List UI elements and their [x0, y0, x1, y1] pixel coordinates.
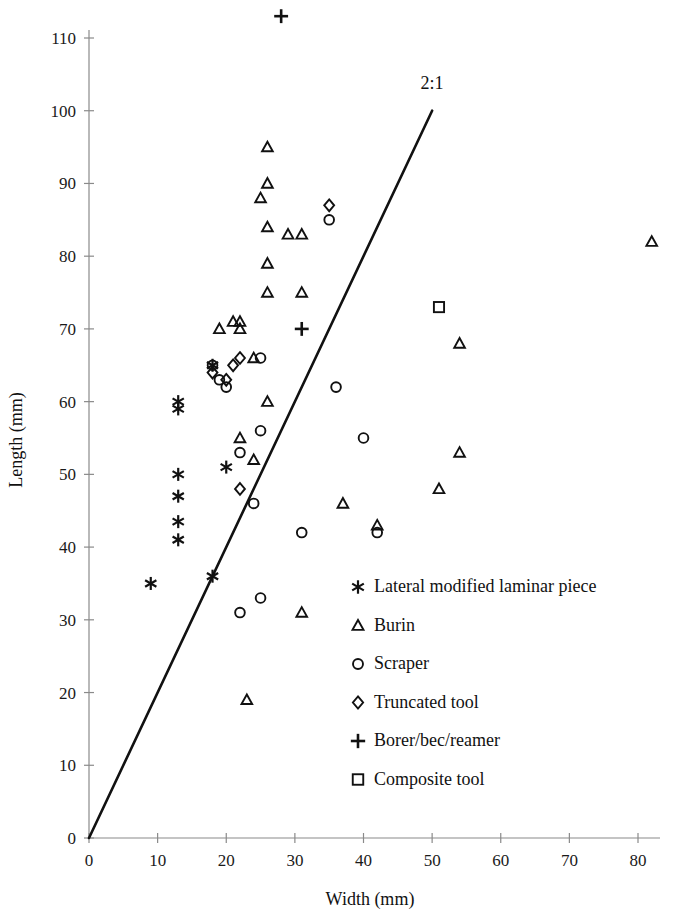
legend-marker-square-icon: [353, 774, 363, 784]
data-point: [296, 287, 307, 297]
x-tick-label: 70: [561, 851, 578, 870]
x-tick-label: 50: [424, 851, 441, 870]
x-tick-label: 10: [149, 851, 166, 870]
y-tick-label: 80: [59, 247, 76, 266]
data-point: [256, 593, 266, 603]
series-1: [214, 142, 657, 704]
legend-item: Lateral modified laminar piece: [352, 576, 596, 596]
data-point: [359, 433, 369, 443]
data-point: [646, 236, 657, 246]
series-0: [145, 359, 232, 590]
data-points: [145, 9, 657, 704]
data-point: [296, 229, 307, 239]
legend-item: Borer/bec/reamer: [351, 730, 500, 750]
x-tick-label: 60: [492, 851, 509, 870]
x-tick-label: 20: [218, 851, 235, 870]
data-point: [283, 229, 294, 239]
legend-item: Scraper: [353, 653, 429, 673]
y-tick-label: 100: [51, 102, 77, 121]
y-tick-label: 0: [68, 829, 77, 848]
data-point: [262, 178, 273, 188]
data-point: [235, 433, 246, 443]
legend-label: Scraper: [374, 653, 429, 673]
y-tick-label: 90: [59, 174, 76, 193]
legend-item: Composite tool: [353, 769, 485, 789]
data-point: [324, 215, 334, 225]
legend-label: Composite tool: [374, 769, 485, 789]
data-point: [255, 193, 266, 203]
legend-marker-triangle-icon: [352, 620, 363, 630]
data-point: [214, 324, 225, 334]
legend-label: Truncated tool: [374, 692, 479, 712]
data-point: [235, 483, 245, 495]
y-tick-label: 10: [59, 756, 76, 775]
data-point: [256, 426, 266, 436]
data-point: [338, 498, 349, 508]
y-tick-label: 110: [51, 29, 76, 48]
data-point: [454, 447, 465, 457]
ratio-annotation-label: 2:1: [421, 73, 444, 93]
data-point: [249, 499, 259, 509]
legend-item: Truncated tool: [353, 692, 479, 712]
y-tick-label: 50: [59, 465, 76, 484]
legend-label: Burin: [374, 615, 415, 635]
series-4: [274, 9, 308, 336]
data-point: [434, 484, 445, 494]
legend-marker-diamond-icon: [353, 696, 363, 708]
legend-marker-circle-icon: [353, 659, 363, 669]
data-point: [262, 258, 273, 268]
data-point: [242, 694, 253, 704]
data-point: [262, 142, 273, 152]
axes: 0102030405060708001020304050607080901001…: [51, 29, 661, 870]
data-point: [248, 454, 259, 464]
y-axis-title: Length (mm): [6, 392, 27, 487]
legend-label: Borer/bec/reamer: [374, 730, 500, 750]
legend: Lateral modified laminar pieceBurinScrap…: [351, 576, 597, 789]
y-tick-label: 60: [59, 393, 76, 412]
plot-canvas: 0102030405060708001020304050607080901001…: [0, 0, 678, 917]
data-point: [235, 448, 245, 458]
x-tick-label: 30: [286, 851, 303, 870]
data-point: [297, 528, 307, 538]
ratio-line-2to1: [89, 111, 432, 838]
data-point: [454, 338, 465, 348]
legend-item: Burin: [352, 615, 415, 635]
x-tick-label: 80: [630, 851, 647, 870]
data-point: [434, 302, 444, 312]
y-tick-label: 20: [59, 684, 76, 703]
y-tick-label: 70: [59, 320, 76, 339]
data-point: [262, 396, 273, 406]
series-5: [434, 302, 444, 312]
data-point: [296, 607, 307, 617]
y-tick-label: 40: [59, 538, 76, 557]
data-point: [235, 608, 245, 618]
data-point: [324, 199, 334, 211]
data-point: [262, 222, 273, 232]
x-axis-title: Width (mm): [326, 889, 415, 910]
scatter-plot-figure: 0102030405060708001020304050607080901001…: [0, 0, 678, 917]
x-tick-label: 0: [85, 851, 94, 870]
legend-label: Lateral modified laminar piece: [374, 576, 596, 596]
y-tick-label: 30: [59, 611, 76, 630]
series-2: [208, 215, 382, 617]
data-point: [262, 287, 273, 297]
data-point: [331, 382, 341, 392]
x-tick-label: 40: [355, 851, 372, 870]
